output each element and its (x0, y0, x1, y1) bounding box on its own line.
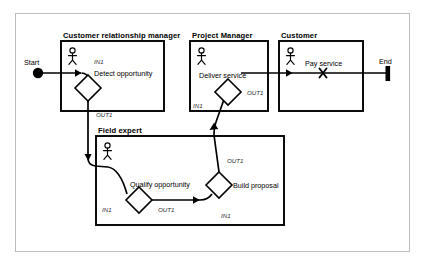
pay-service-label: Pay service (305, 59, 342, 68)
port-label-out1: OUT1 (158, 206, 175, 213)
process-diagram-svg: Customer relationship manager Project Ma… (0, 0, 425, 266)
port-label-in1: IN1 (94, 58, 104, 65)
port-label-in1: IN1 (193, 102, 203, 109)
lane-field-expert[interactable]: Field expert (96, 126, 284, 225)
port-label-in1: IN1 (221, 212, 231, 219)
port-label-in1: IN1 (102, 206, 112, 213)
port-label-out1: OUT1 (96, 111, 113, 118)
port-label-out1: OUT1 (227, 157, 244, 164)
task-label: Qualify opportunity (130, 180, 190, 189)
task-label: Build proposal (233, 181, 279, 190)
task-label: Detect opportunity (94, 69, 153, 78)
lane-title: Field expert (98, 126, 142, 135)
diagram-canvas: Customer relationship manager Project Ma… (0, 0, 425, 266)
lane-title: Customer (281, 31, 317, 40)
lane-title: Customer relationship manager (63, 31, 180, 40)
start-label: Start (24, 58, 39, 67)
port-label-out1: OUT1 (247, 89, 264, 96)
start-circle-icon (33, 68, 43, 78)
task-label: Deliver service (199, 71, 246, 80)
end-label: End (379, 57, 392, 66)
lane-title: Project Manager (192, 31, 253, 40)
end-bar-icon (386, 66, 391, 81)
